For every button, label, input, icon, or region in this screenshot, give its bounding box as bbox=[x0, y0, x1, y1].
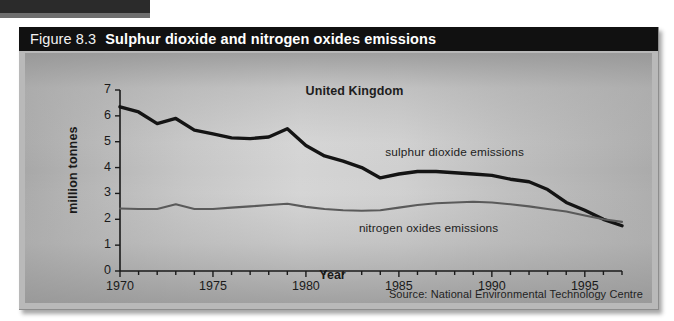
scan-artifact-band-shadow bbox=[0, 13, 150, 18]
figure-title: Sulphur dioxide and nitrogen oxides emis… bbox=[96, 31, 436, 47]
scan-artifact-band bbox=[0, 0, 150, 13]
figure-frame: Figure 8.3 Sulphur dioxide and nitrogen … bbox=[19, 27, 659, 310]
figure-title-bar: Figure 8.3 Sulphur dioxide and nitrogen … bbox=[19, 27, 658, 51]
series-line-1 bbox=[120, 202, 622, 222]
figure-number: Figure 8.3 bbox=[19, 31, 96, 47]
plot-panel: United Kingdom million tonnes Year Sourc… bbox=[25, 53, 652, 303]
line-chart-canvas bbox=[25, 53, 652, 303]
figure-page: Figure 8.3 Sulphur dioxide and nitrogen … bbox=[0, 0, 674, 321]
